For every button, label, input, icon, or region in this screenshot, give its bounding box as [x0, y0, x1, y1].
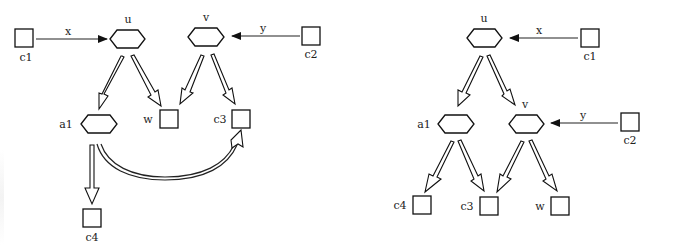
hexagon-node-shape	[509, 115, 544, 133]
node-label: a1	[417, 118, 431, 131]
node-w[interactable]: w	[535, 197, 569, 215]
node-label: v	[202, 11, 210, 24]
node-a1[interactable]: a1	[59, 115, 117, 133]
node-label: c4	[393, 199, 406, 212]
hexagon-node-shape	[438, 115, 474, 133]
node-label: c4	[85, 231, 98, 244]
hexagon-node-shape	[467, 29, 502, 47]
node-label: v	[521, 98, 529, 111]
hollow-arrowhead	[231, 130, 243, 148]
edge-label: x	[536, 24, 543, 37]
square-node-shape	[232, 110, 250, 128]
hollow-double-arrow	[180, 55, 204, 104]
hollow-double-arrow	[487, 55, 515, 105]
edge-label: x	[65, 25, 72, 38]
edge-y[interactable]: y	[232, 22, 300, 36]
square-node-shape	[551, 197, 569, 215]
edge-a1-c4[interactable]	[425, 141, 454, 192]
node-label: u	[480, 12, 487, 25]
edge-v-c3[interactable]	[497, 141, 524, 192]
right-diagram: u x c1 a1 v y c2	[393, 12, 639, 215]
edge-u-w[interactable]	[131, 55, 161, 106]
square-node-shape	[413, 196, 431, 214]
hollow-double-arrow	[99, 56, 124, 109]
node-c2[interactable]: c2	[621, 113, 639, 147]
edge-v-w[interactable]	[529, 140, 557, 191]
square-node-shape	[621, 113, 639, 131]
node-label: c2	[623, 134, 636, 147]
hollow-double-arrow	[458, 56, 483, 106]
square-node-shape	[83, 209, 101, 227]
edge-a1-c3[interactable]	[458, 140, 484, 191]
hexagon-node-shape	[110, 30, 145, 48]
curved-double-line-outer	[97, 144, 237, 180]
edge-u-v[interactable]	[487, 55, 515, 105]
edge-v-c3[interactable]	[211, 54, 235, 104]
node-label: w	[143, 113, 153, 126]
left-diagram: c1 x u v y c2 a1	[15, 11, 320, 244]
edge-x[interactable]: x	[36, 25, 107, 39]
node-c4[interactable]: c4	[83, 209, 101, 244]
hexagon-node-shape	[188, 28, 224, 46]
edge-u-a1[interactable]	[458, 56, 483, 106]
node-c3[interactable]: c3	[213, 110, 250, 128]
node-c3[interactable]: c3	[460, 197, 498, 215]
node-u[interactable]: u	[467, 12, 502, 47]
node-label: c1	[19, 51, 32, 64]
square-node-shape	[15, 29, 33, 47]
edge-a1-c3-curved[interactable]	[97, 130, 243, 180]
node-label: c1	[583, 50, 596, 63]
edge-v-w[interactable]	[180, 55, 204, 104]
node-c4[interactable]: c4	[393, 196, 431, 214]
edge-a1-c4[interactable]	[85, 145, 99, 204]
node-label: u	[124, 13, 131, 26]
node-c2[interactable]: c2	[302, 27, 320, 61]
node-c1[interactable]: c1	[581, 29, 599, 63]
node-label: w	[535, 200, 545, 213]
hollow-double-arrow	[425, 141, 454, 192]
square-node-shape	[160, 110, 178, 128]
hollow-double-arrow	[85, 145, 99, 204]
hollow-double-arrow	[497, 141, 524, 192]
diagram-canvas: c1 x u v y c2 a1	[0, 0, 674, 249]
curved-double-line-inner	[101, 144, 234, 177]
node-label: c3	[460, 200, 473, 213]
edge-u-a1[interactable]	[99, 56, 124, 109]
square-node-shape	[302, 27, 320, 45]
edge-y[interactable]: y	[551, 109, 618, 123]
node-u[interactable]: u	[110, 13, 145, 48]
hollow-double-arrow	[458, 140, 484, 191]
hollow-double-arrow	[211, 54, 235, 104]
node-c1[interactable]: c1	[15, 29, 33, 64]
node-a1[interactable]: a1	[417, 115, 474, 133]
node-label: a1	[59, 118, 73, 131]
edge-x[interactable]: x	[510, 24, 578, 38]
node-v[interactable]: v	[188, 11, 224, 46]
edge-label: y	[259, 22, 267, 35]
hexagon-node-shape	[81, 115, 117, 133]
edge-label: y	[579, 109, 587, 122]
node-w[interactable]: w	[143, 110, 178, 128]
hollow-double-arrow	[529, 140, 557, 191]
square-node-shape	[480, 197, 498, 215]
square-node-shape	[581, 29, 599, 47]
node-label: c3	[213, 113, 226, 126]
hollow-double-arrow	[131, 55, 161, 106]
node-label: c2	[304, 48, 317, 61]
